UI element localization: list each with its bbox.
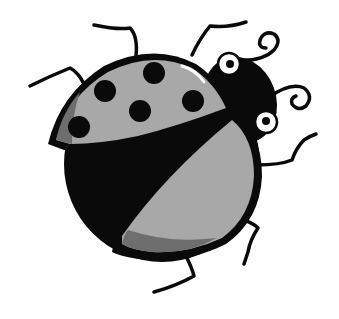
ladybug-illustration: Cartoon ladybug illustration	[0, 0, 339, 319]
spot	[94, 80, 116, 102]
spot	[143, 62, 165, 84]
spot	[129, 100, 151, 122]
eye-top	[218, 53, 240, 75]
spot	[68, 116, 90, 138]
eye-bottom	[255, 111, 277, 133]
spot	[182, 90, 204, 112]
ladybug-svg	[0, 0, 339, 319]
